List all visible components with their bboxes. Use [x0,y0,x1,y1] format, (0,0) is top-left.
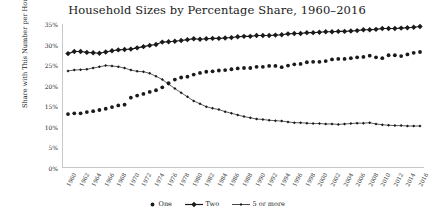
data-point [154,88,158,92]
x-tick-label: 2002 [329,172,341,187]
data-point [318,60,322,64]
data-point [199,102,202,105]
data-point [418,50,422,54]
data-point [412,51,416,55]
legend-item[interactable]: One [149,200,172,208]
data-point [98,65,101,68]
data-point [104,107,108,111]
data-point [368,121,371,124]
x-tick-label: 1992 [266,172,278,187]
legend-label: 5 or more [253,200,285,208]
data-point [274,119,277,122]
data-point [166,39,171,44]
y-tick-label: 5% [18,144,58,151]
data-point [216,36,221,41]
data-point [85,68,88,71]
data-point [192,73,196,77]
data-point [274,64,278,68]
data-point [191,201,196,206]
data-point [419,125,422,128]
x-tick-label: 2008 [367,172,379,187]
legend-label: One [159,200,172,208]
data-point [361,27,366,32]
data-point [381,123,384,126]
data-point [155,75,158,78]
data-point [90,50,95,55]
data-point [380,56,384,60]
x-tick-label: 1968 [116,172,128,187]
data-point [268,119,271,122]
data-point [380,26,385,31]
data-point [210,36,215,41]
data-point [191,36,196,41]
data-point [122,47,127,52]
data-point [136,70,139,73]
x-tick-label: 1972 [141,172,153,187]
data-point [387,124,390,127]
data-point [79,68,82,71]
data-point [373,27,378,32]
data-point [173,78,177,82]
data-point [305,122,308,125]
data-point [229,35,234,40]
data-point [178,38,183,43]
data-point [374,55,378,59]
x-tick-label: 2010 [380,172,392,187]
data-point [398,25,403,30]
data-point [280,65,284,69]
data-point [109,48,114,53]
data-point [92,67,95,70]
data-point [255,65,259,69]
data-point [354,28,359,33]
series-two [65,24,422,57]
data-point [349,56,353,60]
data-point [160,85,164,89]
chart-title: Household Sizes by Percentage Share, 196… [0,3,434,17]
data-point [211,69,215,73]
y-tick-label: 30% [18,41,58,48]
data-point [104,64,107,67]
series-5-or-more [67,64,422,127]
data-point [386,26,391,31]
data-point [141,44,146,49]
x-tick-label: 1960 [65,172,77,187]
data-point [324,59,328,63]
data-point [362,55,366,59]
data-point [355,55,359,59]
data-point [343,122,346,125]
data-point [72,49,77,54]
data-point [304,30,309,35]
data-point [148,90,152,94]
y-tick-label: 15% [18,103,58,110]
x-tick-label: 1964 [90,172,102,187]
data-point [292,31,297,36]
data-point [368,54,372,58]
x-tick-label: 1984 [216,172,228,187]
x-tick-label: 2014 [405,172,417,187]
data-point [197,37,202,42]
data-point [151,202,155,206]
legend-marker-icon [185,201,203,208]
data-point [67,69,70,72]
data-point [329,29,334,34]
data-point [298,31,303,36]
data-point [375,122,378,125]
data-point [148,72,151,75]
x-tick-label: 2006 [354,172,366,187]
x-tick-label: 1970 [128,172,140,187]
data-point [254,33,259,38]
data-point [317,30,322,35]
y-tick-label: 10% [18,123,58,130]
x-tick-label: 1990 [254,172,266,187]
x-tick-label: 2016 [417,172,429,187]
data-point [185,37,190,42]
legend-item[interactable]: 5 or more [232,200,285,208]
data-point [142,70,145,73]
x-tick-label: 1966 [103,172,115,187]
data-point [236,113,239,116]
x-tick-label: 1998 [304,172,316,187]
data-point [84,50,89,55]
data-point [123,103,127,107]
legend-item[interactable]: Two [185,200,219,208]
data-point [98,108,102,112]
